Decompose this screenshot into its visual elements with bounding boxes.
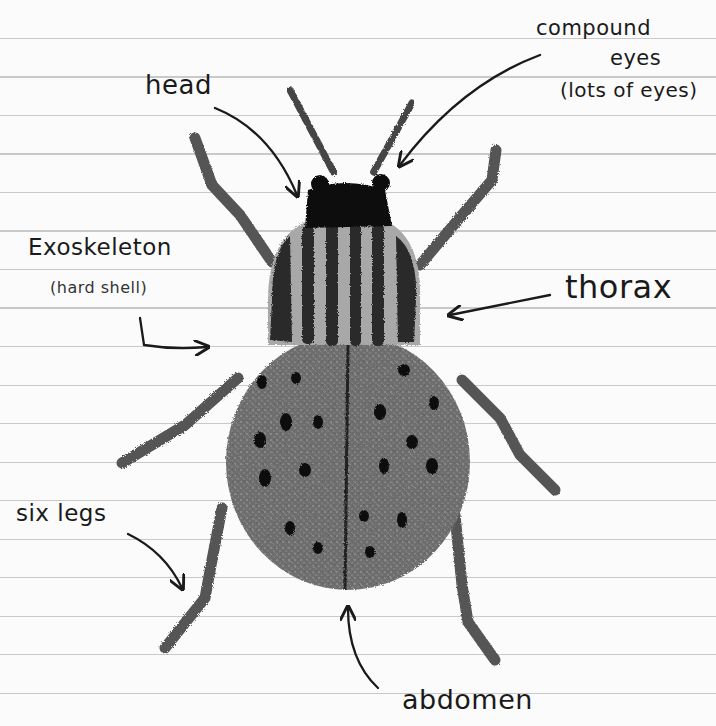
head-arrow bbox=[215, 108, 297, 195]
label-abdomen: abdomen bbox=[402, 684, 533, 715]
thorax-shell bbox=[268, 222, 420, 346]
antenna-left bbox=[290, 90, 335, 175]
beetle-head bbox=[305, 174, 392, 228]
label-exoskeleton: Exoskeleton bbox=[28, 234, 172, 260]
label-eyes: eyes bbox=[610, 46, 661, 70]
label-thorax: thorax bbox=[565, 268, 672, 306]
beetle-drawing bbox=[0, 0, 716, 726]
antenna-right bbox=[372, 103, 412, 175]
label-compound: compound bbox=[536, 16, 651, 40]
label-hard-shell: (hard shell) bbox=[50, 278, 147, 297]
exoskeleton-arrow bbox=[140, 318, 207, 348]
six-legs-arrow bbox=[128, 534, 182, 588]
thorax-arrow bbox=[450, 295, 550, 315]
compound-eyes-arrow bbox=[400, 55, 540, 165]
compound-eye-left bbox=[311, 175, 329, 193]
notebook-paper: head compound eyes (lots of eyes) Exoske… bbox=[0, 0, 716, 726]
abdomen-arrow bbox=[348, 608, 378, 688]
label-six-legs: six legs bbox=[16, 500, 106, 526]
label-head: head bbox=[145, 70, 212, 100]
compound-eye-right bbox=[372, 174, 390, 192]
label-lots-of-eyes: (lots of eyes) bbox=[560, 78, 698, 102]
